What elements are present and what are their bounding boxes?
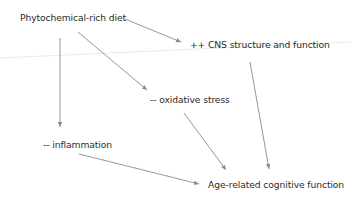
- node-oxidative-stress: -- oxidative stress: [150, 94, 230, 106]
- node-age-related-cognitive-function: Age-related cognitive function: [208, 179, 344, 191]
- arrow-diet-to-cns: [125, 19, 181, 42]
- node-inflammation: -- inflammation: [43, 139, 112, 151]
- diagram-canvas: Phytochemical-rich diet ++ CNS structure…: [0, 0, 352, 200]
- arrow-diet-to-oxidative: [78, 32, 147, 90]
- node-phytochemical-diet: Phytochemical-rich diet: [20, 12, 126, 24]
- node-cns-structure-function: ++ CNS structure and function: [190, 39, 330, 51]
- arrow-inflammation-to-cognitive: [79, 154, 199, 184]
- arrow-oxidative-to-cognitive: [184, 113, 226, 170]
- arrow-cns-to-cognitive: [250, 62, 269, 169]
